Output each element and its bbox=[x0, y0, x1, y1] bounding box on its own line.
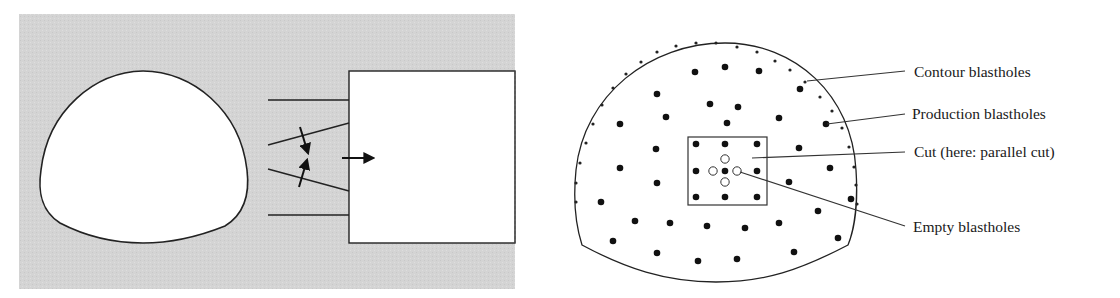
label-contour-blastholes: Contour blastholes bbox=[914, 63, 1031, 80]
label-cut: Cut (here: parallel cut) bbox=[914, 143, 1055, 161]
label-production-blastholes: Production blastholes bbox=[912, 105, 1046, 122]
rock-block bbox=[349, 71, 515, 243]
left-panel bbox=[19, 14, 515, 289]
label-empty-blastholes: Empty blastholes bbox=[913, 218, 1020, 235]
leader-contour bbox=[807, 71, 905, 81]
right-panel: Contour blastholes Production blastholes… bbox=[574, 41, 1054, 282]
drill-pattern-diagram: Contour blastholes Production blastholes… bbox=[0, 0, 1120, 298]
face-outline bbox=[575, 43, 857, 282]
